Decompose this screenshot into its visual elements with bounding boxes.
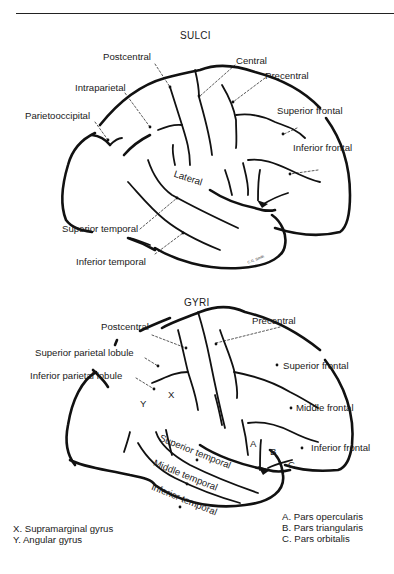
gyri-label-inferior-parietal-lobule: Inferior parietal lobule [30,370,122,381]
brain-illustrations [0,0,394,574]
sulci-brain-sulci [110,70,320,250]
gyri-label-superior-parietal-lobule: Superior parietal lobule [35,347,134,358]
legend-item-a: A. Pars opercularis [282,511,363,522]
gyri-label-inferior-frontal: Inferior frontal [311,442,370,453]
sulci-brain-outline [62,66,350,268]
legend-item-b: B. Pars triangularis [282,522,363,533]
gyri-label-postcentral: Postcentral [101,321,149,332]
sulci-label-postcentral: Postcentral [103,51,151,62]
legend-inferior-frontal-parts: A. Pars opercularis B. Pars triangularis… [282,511,363,544]
gyri-marker-x: X [168,389,174,400]
gyri-marker-c: C [288,459,295,470]
legend-item-y: Y. Angular gyrus [13,534,113,545]
sulci-label-superior-temporal: Superior temporal [62,223,138,234]
legend-item-c: C. Pars orbitalis [282,533,363,544]
sulci-label-intraparietal: Intraparietal [75,82,126,93]
legend-parietal: X. Supramarginal gyrus Y. Angular gyrus [13,523,113,545]
gyri-label-superior-frontal: Superior frontal [283,360,349,371]
gyri-title: GYRI [184,297,210,308]
sulci-label-inferior-temporal: Inferior temporal [76,256,146,267]
legend-item-x: X. Supramarginal gyrus [13,523,113,534]
gyri-leader-lines [136,327,280,389]
gyri-marker-b: B [270,446,276,457]
gyri-marker-y: Y [140,398,146,409]
gyri-dots [153,343,304,509]
gyri-label-middle-frontal: Middle frontal [296,402,354,413]
gyri-label-precentral: Precentral [252,315,296,326]
sulci-label-central: Central [236,55,267,66]
sulci-label-precentral: Precentral [265,70,309,81]
sulci-label-inferior-frontal: Inferior frontal [293,142,352,153]
sulci-label-superior-frontal: Superior frontal [277,105,343,116]
sulci-title: SULCI [180,30,211,41]
gyri-brain-sulci [124,312,318,503]
gyri-marker-a: A [250,438,256,449]
sulci-label-parietooccipital: Parietooccipital [25,110,90,121]
